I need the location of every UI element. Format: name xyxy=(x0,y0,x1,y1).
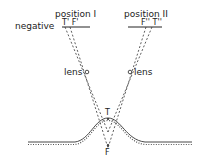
lens-left-icon xyxy=(85,70,89,74)
label-f: F xyxy=(105,148,110,155)
label-lens-right: lens xyxy=(134,67,153,77)
parallax-diagram: position I position II negative T' F' F'… xyxy=(0,0,201,155)
point-t xyxy=(107,118,109,120)
rays-right xyxy=(108,27,152,148)
label-t1-f1: T' F' xyxy=(61,18,78,27)
point-f xyxy=(107,144,109,146)
lens-right-icon xyxy=(128,70,132,74)
label-t: T xyxy=(104,108,110,117)
terrain-hatching xyxy=(28,121,192,145)
rays-left xyxy=(65,27,108,148)
terrain-surface xyxy=(28,118,192,142)
label-negative: negative xyxy=(15,21,55,31)
label-lens-left: lens xyxy=(64,67,83,77)
label-f2-t2: F'' T'' xyxy=(141,18,162,27)
